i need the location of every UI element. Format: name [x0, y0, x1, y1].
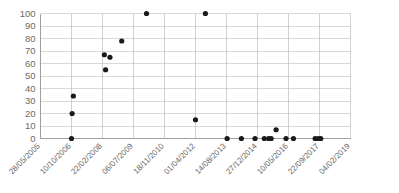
x-axis-tick-label: 27/12/2014	[224, 141, 259, 176]
data-point	[269, 136, 274, 141]
data-point	[71, 93, 76, 98]
x-axis-tick-labels: 28/05/200510/10/200622/02/200806/07/2009…	[7, 141, 352, 176]
data-point	[239, 136, 244, 141]
scatter-chart: 0102030405060708090100 28/05/200510/10/2…	[0, 0, 399, 193]
data-point	[144, 11, 149, 16]
data-point	[102, 52, 107, 57]
x-axis-tick-label: 28/05/2005	[7, 141, 42, 176]
x-axis-tick-label: 10/05/2016	[255, 141, 290, 176]
data-point	[291, 136, 296, 141]
y-axis-tick-label: 10	[25, 120, 36, 131]
data-point	[283, 136, 288, 141]
y-axis-tick-label: 30	[25, 95, 36, 106]
chart-canvas: 0102030405060708090100 28/05/200510/10/2…	[0, 0, 399, 193]
y-axis-tick-label: 70	[25, 45, 36, 56]
x-axis-tick-label: 18/11/2010	[132, 141, 167, 176]
y-axis-tick-label: 80	[25, 33, 36, 44]
data-point	[203, 11, 208, 16]
x-axis-tick-label: 04/02/2019	[317, 141, 352, 176]
x-axis-tick-label: 14/08/2013	[193, 141, 228, 176]
data-point	[274, 127, 279, 132]
y-axis-tick-label: 60	[25, 58, 36, 69]
data-point	[103, 67, 108, 72]
data-point	[107, 55, 112, 60]
x-axis-tick-label: 10/10/2006	[38, 141, 73, 176]
x-axis-tick-label: 01/04/2012	[162, 141, 197, 176]
x-axis-tick-label: 06/07/2009	[100, 141, 135, 176]
data-point	[193, 117, 198, 122]
y-axis-tick-label: 20	[25, 108, 36, 119]
data-point	[318, 136, 323, 141]
y-axis-tick-label: 100	[20, 8, 36, 19]
data-point	[225, 136, 230, 141]
data-point	[69, 136, 74, 141]
x-axis-tick-label: 22/02/2008	[69, 141, 104, 176]
y-axis-tick-label: 40	[25, 83, 36, 94]
data-point	[119, 38, 124, 43]
y-axis-tick-label: 50	[25, 70, 36, 81]
y-axis-tick-labels: 0102030405060708090100	[20, 8, 36, 144]
data-point	[252, 136, 257, 141]
data-point	[70, 111, 75, 116]
y-axis-tick-label: 90	[25, 20, 36, 31]
x-axis-tick-label: 22/09/2017	[286, 141, 321, 176]
